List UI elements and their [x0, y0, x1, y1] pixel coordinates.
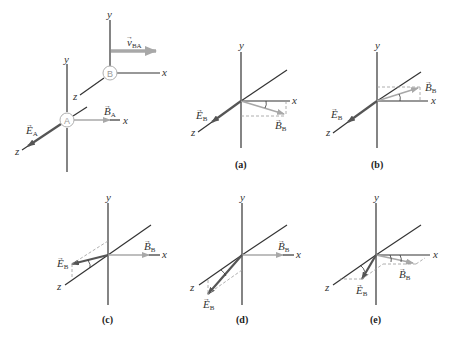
svg-text:→: → [57, 254, 64, 262]
panel-a-x-label: x [291, 94, 297, 106]
panel-e-angle-arc [360, 265, 365, 272]
panel-a: y x z EB → BB → (a) [190, 39, 297, 171]
panel-a-z-axis-back [241, 70, 287, 101]
panel-d-x-label: x [295, 248, 301, 260]
panel-e-z-axis-back [376, 225, 421, 255]
panel-b-z-axis-front [333, 122, 348, 133]
svg-text:→: → [144, 237, 151, 245]
panel-b-caption: (b) [371, 159, 383, 171]
frame-b-label: B [107, 69, 113, 79]
panel-c-x-label: x [161, 248, 167, 260]
svg-text:→: → [275, 116, 282, 124]
panel-b-x-label: x [430, 94, 436, 106]
svg-text:→: → [331, 105, 338, 113]
panel-e-z-label: z [324, 281, 330, 293]
frame-b-y-label: y [106, 8, 112, 20]
panel-d-caption: (d) [236, 314, 248, 326]
panel-a-angle-arc [265, 101, 266, 108]
svg-text:→: → [425, 78, 432, 86]
frame-b: B vBA → y x z [72, 8, 167, 102]
panel-e: y x z EB → BB → (e) [324, 191, 438, 326]
panel-c-e-vector [72, 255, 108, 264]
frame-b-z-axis [80, 78, 104, 95]
panel-a-y-label: y [238, 39, 244, 51]
svg-text:→: → [104, 102, 111, 110]
panel-b-angle-arc [399, 94, 400, 101]
frame-b-x-label: x [161, 66, 167, 78]
frame-b-z-label: z [72, 90, 78, 102]
panel-e-dashed-guide [416, 258, 425, 264]
svg-text:→: → [356, 281, 363, 289]
panel-e-caption: (e) [370, 314, 381, 326]
frame-a-x-label: x [122, 114, 128, 126]
svg-text:→: → [203, 295, 210, 303]
setup-figure: B vBA → y x z A y x z EA → BA → [14, 8, 167, 172]
panel-e-e-vector [362, 255, 376, 279]
panel-c-z-label: z [56, 280, 62, 292]
panel-e-b-vector [376, 255, 413, 263]
svg-text:→: → [399, 265, 406, 273]
panel-d-y-label: y [239, 191, 245, 203]
panel-b-b-vector [377, 88, 418, 101]
panel-e-x-label: x [432, 248, 438, 260]
panel-e-z-axis-front [333, 255, 376, 285]
panel-b-e-vector [348, 101, 377, 122]
panel-a-z-label: z [190, 126, 196, 138]
panel-a-e-vector [212, 101, 241, 122]
frame-a-z-axis-front [22, 146, 28, 150]
diagram-canvas: B vBA → y x z A y x z EA → BA → [0, 0, 455, 340]
panel-e-y-label: y [373, 191, 379, 203]
svg-text:→: → [26, 121, 33, 129]
frame-a-z-axis-back [73, 107, 87, 116]
svg-text:→: → [278, 237, 285, 245]
frame-a-z-label: z [14, 145, 20, 157]
panel-a-b-vector [241, 101, 284, 114]
panel-b: y x z EB → BB → (b) [325, 39, 437, 171]
frame-a-label: A [64, 116, 70, 126]
panel-a-caption: (a) [235, 159, 247, 171]
panel-d: y x z EB → BB → (d) [189, 191, 301, 326]
panel-a-z-axis-front [198, 122, 212, 132]
panel-b-z-label: z [325, 126, 331, 138]
frame-a-y-label: y [63, 53, 69, 65]
panel-b-y-label: y [374, 39, 380, 51]
svg-text:→: → [196, 106, 203, 114]
panel-b-z-axis-back [377, 72, 421, 101]
panel-c-y-label: y [105, 191, 111, 203]
panel-c-caption: (c) [102, 314, 113, 326]
panel-c: y x z EB → BB → (c) [56, 191, 167, 326]
panel-d-z-label: z [189, 281, 195, 293]
vector-arrow-accent: → [126, 33, 133, 41]
panel-c-angle-arc [88, 260, 90, 268]
